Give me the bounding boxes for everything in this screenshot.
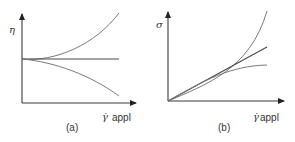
panel-a: η γ̇ appl (a) (9, 13, 136, 133)
x-label-symbol-a: γ̇ (102, 111, 108, 122)
curve-thickening-a (22, 13, 119, 59)
x-label-subscript-a: appl (112, 112, 131, 123)
curve-thickening-b (168, 11, 267, 101)
curve-thinning-b (168, 65, 267, 101)
caption-b: (b) (218, 122, 230, 133)
x-label-symbol-b: γ̇ (253, 111, 259, 122)
figure-canvas: η γ̇ appl (a) σ γ̇ appl (b) (0, 0, 295, 142)
curve-thinning-a (22, 59, 119, 96)
caption-a: (a) (66, 122, 78, 133)
panel-b: σ γ̇ appl (b) (156, 11, 284, 133)
x-label-subscript-b: appl (260, 112, 279, 123)
y-label-a: η (9, 24, 15, 35)
y-label-b: σ (156, 19, 164, 30)
